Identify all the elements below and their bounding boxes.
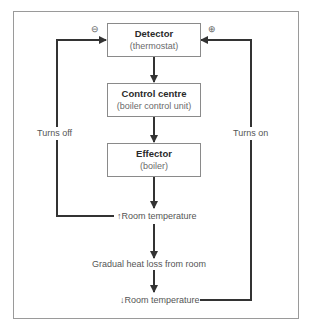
control-centre-title: Control centre <box>122 88 187 100</box>
effector-subtitle: (boiler) <box>140 160 168 172</box>
room-temp-up-label: ↑Room temperature <box>116 211 198 222</box>
detector-title: Detector <box>135 28 174 40</box>
heat-loss-label: Gradual heat loss from room <box>92 259 206 270</box>
room-temp-down-label: ↓Room temperature <box>120 295 200 306</box>
negative-sign-icon: ⊖ <box>91 24 99 34</box>
turns-on-label: Turns on <box>232 127 269 140</box>
detector-subtitle: (thermostat) <box>130 40 179 52</box>
positive-sign-icon: ⊕ <box>208 24 216 34</box>
control-centre-box: Control centre (boiler control unit) <box>107 83 201 117</box>
effector-box: Effector (boiler) <box>107 143 201 177</box>
effector-title: Effector <box>136 148 172 160</box>
turns-off-label: Turns off <box>36 127 73 140</box>
detector-box: Detector (thermostat) <box>107 23 201 57</box>
control-centre-subtitle: (boiler control unit) <box>117 100 192 112</box>
